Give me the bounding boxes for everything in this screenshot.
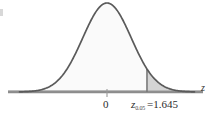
zero-tick-label: 0 (103, 99, 109, 110)
critical-value-number: =1.645 (147, 98, 178, 110)
curve-body-fill (20, 3, 195, 92)
critical-value-subscript: 0.05 (135, 105, 145, 111)
critical-value-label: z0.05=1.645 (131, 99, 178, 110)
normal-distribution-figure: z 0 z0.05=1.645 (0, 0, 214, 122)
x-axis-label: z (201, 83, 205, 93)
